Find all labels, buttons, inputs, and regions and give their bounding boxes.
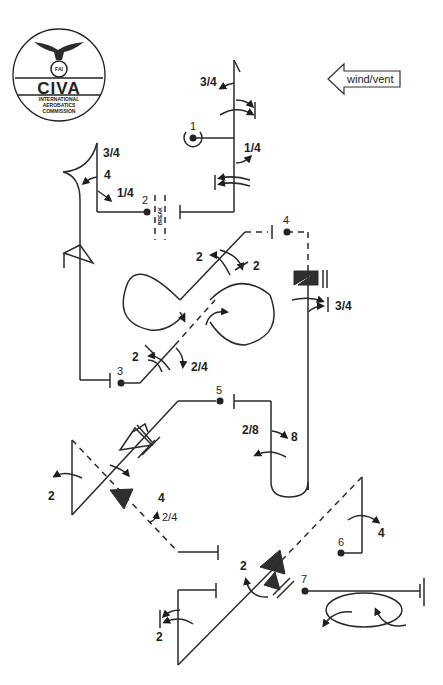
fai-emblem: FAI [55, 66, 63, 72]
figure-number: 6 [338, 536, 344, 548]
figure-1: 1 3/4 1/4 [180, 60, 261, 219]
figure-5: 5 2/8 8 [216, 384, 308, 497]
roll-label: 1/4 [244, 141, 261, 155]
wind-label: wind/vent [346, 73, 393, 85]
roll-label: 2/8 [242, 423, 259, 437]
figure-4: 4 3/4 [283, 214, 352, 490]
roll-label: 2/4 [162, 511, 177, 523]
roll-label: 2 [48, 489, 55, 503]
figure-number: 2 [142, 194, 148, 206]
roll-label: 4 [158, 491, 165, 505]
break-label: BREAK [157, 207, 163, 225]
aerobatic-sequence-diagram: FAI CIVA INTERNATIONAL AEROBATICS COMMIS… [0, 0, 443, 685]
figure-number: 3 [117, 365, 123, 377]
roll-label: 3/4 [335, 299, 352, 313]
civa-logo: FAI CIVA INTERNATIONAL AEROBATICS COMMIS… [13, 29, 105, 121]
roll-label: 3/4 [200, 75, 217, 89]
roll-label: 2/4 [191, 360, 208, 374]
figure-number: 4 [283, 214, 289, 226]
figure-3: 3 2 2 2 2/4 [80, 225, 274, 388]
figure-number: 5 [216, 384, 222, 396]
figure-2: 2 3/4 4 1/4 BREAK [63, 143, 165, 380]
roll-label: 2 [156, 630, 163, 644]
logo-line-3: COMMISSION [43, 108, 76, 114]
roll-label: 2 [253, 259, 260, 273]
break-marker: BREAK [155, 195, 165, 240]
figure-7: 7 [301, 573, 424, 627]
roll-label: 3/4 [103, 146, 120, 160]
wind-direction-arrow: wind/vent [328, 64, 400, 94]
roll-label: 8 [291, 430, 298, 444]
figure-5b: 2 4 2/4 [48, 401, 218, 560]
roll-label: 4 [104, 168, 111, 182]
roll-label: 2 [240, 559, 247, 573]
roll-label: 4 [378, 526, 385, 540]
figure-number: 1 [190, 120, 196, 132]
figure-number: 7 [301, 573, 307, 585]
roll-label: 2 [196, 250, 203, 264]
figure-6: 6 4 2 2 [156, 477, 385, 665]
roll-label: 1/4 [117, 186, 134, 200]
roll-label: 2 [132, 350, 139, 364]
